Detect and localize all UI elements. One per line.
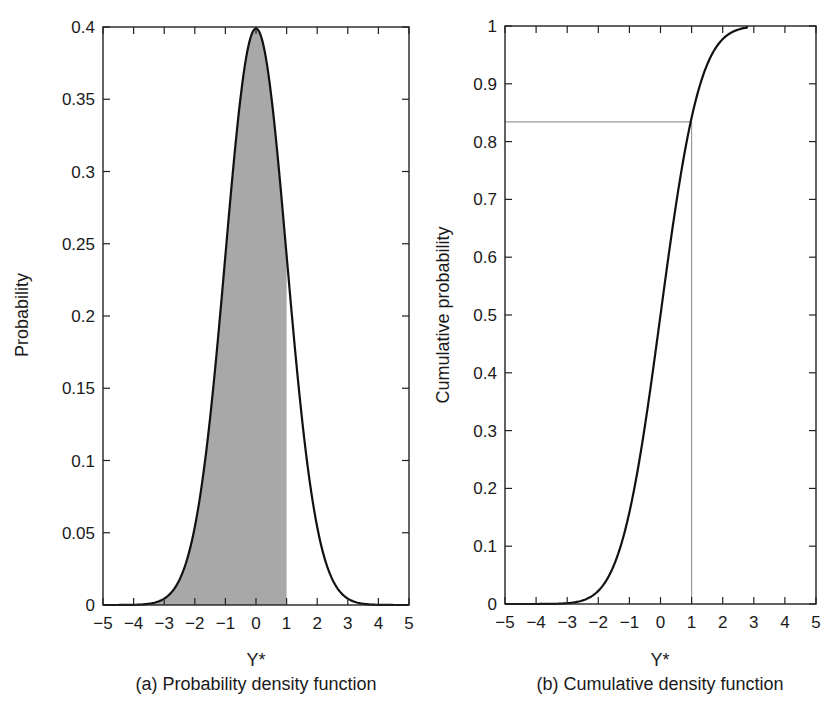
y-tick-label: 0.8 [473, 133, 497, 152]
pdf-caption: (a) Probability density function [135, 674, 376, 694]
x-tick-label: 3 [343, 614, 352, 633]
x-tick-label: 3 [749, 613, 758, 632]
y-tick-label: 0.25 [62, 235, 95, 254]
pdf-y-tick-labels: 00.050.10.150.20.250.30.350.4 [62, 18, 95, 615]
cdf-caption: (b) Cumulative density function [536, 674, 783, 694]
x-tick-label: −2 [185, 614, 204, 633]
x-tick-label: 5 [404, 614, 413, 633]
y-tick-label: 0.1 [473, 537, 497, 556]
x-tick-label: 1 [282, 614, 291, 633]
y-tick-label: 0.3 [473, 422, 497, 441]
y-tick-label: 0.15 [62, 379, 95, 398]
x-tick-label: 1 [687, 613, 696, 632]
pdf-x-tick-labels: −5−4−3−2−1012345 [93, 614, 413, 633]
y-tick-label: 1 [488, 17, 497, 36]
x-tick-label: 4 [374, 614, 383, 633]
x-tick-label: 2 [718, 613, 727, 632]
y-tick-label: 0.4 [71, 18, 95, 37]
figure: −5−4−3−2−1012345 00.050.10.150.20.250.30… [0, 0, 835, 711]
x-tick-label: 4 [780, 613, 789, 632]
cdf-y-axis-label: Cumulative probability [433, 226, 453, 403]
cdf-x-tick-labels: −5−4−3−2−1012345 [495, 613, 820, 632]
y-tick-label: 0 [86, 596, 95, 615]
x-tick-label: −1 [620, 613, 639, 632]
x-tick-label: −4 [124, 614, 143, 633]
x-tick-label: −4 [526, 613, 545, 632]
y-tick-label: 0.1 [71, 452, 95, 471]
y-tick-label: 0.2 [473, 479, 497, 498]
x-tick-label: −3 [558, 613, 577, 632]
x-tick-label: 0 [251, 614, 260, 633]
x-tick-label: −1 [216, 614, 235, 633]
y-tick-label: 0.6 [473, 248, 497, 267]
pdf-chart: −5−4−3−2−1012345 00.050.10.150.20.250.30… [12, 18, 414, 694]
cdf-curve [505, 26, 748, 604]
x-tick-label: −3 [155, 614, 174, 633]
y-tick-label: 0.5 [473, 306, 497, 325]
cdf-y-tick-labels: 00.10.20.30.40.50.60.70.80.91 [473, 17, 497, 614]
x-tick-label: −5 [93, 614, 112, 633]
x-tick-label: 0 [656, 613, 665, 632]
y-tick-label: 0.2 [71, 307, 95, 326]
y-tick-label: 0.4 [473, 364, 497, 383]
y-tick-label: 0.35 [62, 90, 95, 109]
y-tick-label: 0.05 [62, 524, 95, 543]
x-tick-label: −2 [589, 613, 608, 632]
x-tick-label: 5 [811, 613, 820, 632]
cdf-chart: −5−4−3−2−1012345 00.10.20.30.40.50.60.70… [433, 17, 821, 694]
pdf-y-axis-label: Probability [12, 273, 32, 357]
cdf-x-axis-label: Y* [650, 650, 669, 670]
x-tick-label: −5 [495, 613, 514, 632]
pdf-x-axis-label: Y* [246, 650, 265, 670]
y-tick-label: 0 [488, 595, 497, 614]
pdf-shaded-area [103, 29, 287, 605]
y-tick-label: 0.7 [473, 190, 497, 209]
y-tick-label: 0.3 [71, 163, 95, 182]
x-tick-label: 2 [312, 614, 321, 633]
y-tick-label: 0.9 [473, 75, 497, 94]
